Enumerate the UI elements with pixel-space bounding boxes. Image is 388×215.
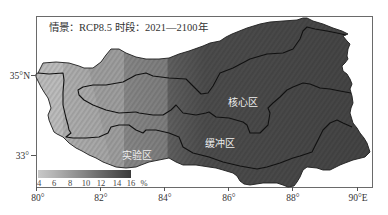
zone-label-experimental: 实验区 — [122, 149, 152, 161]
legend-tick-12: 12 — [97, 178, 106, 188]
zone-label-buffer: 缓冲区 — [205, 137, 235, 149]
legend-unit: % — [140, 178, 147, 188]
legend-colorbar — [38, 170, 131, 178]
x-tick-label-84: 84° — [158, 193, 172, 203]
x-axis: 80° 82° 84° 86° 88° 90°E — [31, 187, 367, 203]
legend-tick-8: 8 — [68, 178, 72, 188]
y-tick-label-33: 33° — [16, 151, 30, 161]
x-tick-label-82: 82° — [94, 193, 108, 203]
x-tick-label-86: 86° — [222, 193, 236, 203]
legend-tick-16: 16 — [127, 178, 136, 188]
x-tick-label-90: 90°E — [348, 193, 367, 203]
scenario-label: 情景：RCP8.5 — [49, 21, 112, 33]
legend-tick-14: 14 — [113, 178, 122, 188]
map-figure: 情景：RCP8.5 时段：2021—2100年 核心区 缓冲区 实验区 4 6 … — [0, 0, 388, 215]
legend: 4 6 8 10 12 14 16 % — [37, 170, 148, 188]
x-tick-label-80: 80° — [31, 193, 45, 203]
period-label: 时段：2021—2100年 — [115, 21, 208, 33]
legend-tick-6: 6 — [52, 178, 56, 188]
legend-tick-10: 10 — [82, 178, 91, 188]
legend-tick-4: 4 — [37, 178, 42, 188]
y-tick-label-35: 35°N — [10, 71, 30, 81]
x-tick-label-88: 88° — [286, 193, 300, 203]
zone-label-core: 核心区 — [228, 96, 258, 108]
y-axis: 35°N 33° — [10, 71, 36, 161]
